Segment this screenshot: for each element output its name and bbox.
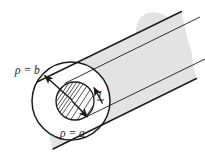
cylinder-body-group — [32, 2, 204, 149]
figure-container: ρ = b ρ = a I — [0, 0, 205, 157]
coaxial-cylinder-diagram: ρ = b ρ = a I — [0, 0, 205, 157]
outer-radius-label: ρ = b — [14, 64, 40, 77]
inner-radius-label: ρ = a — [59, 127, 85, 140]
current-label: I — [97, 89, 102, 100]
